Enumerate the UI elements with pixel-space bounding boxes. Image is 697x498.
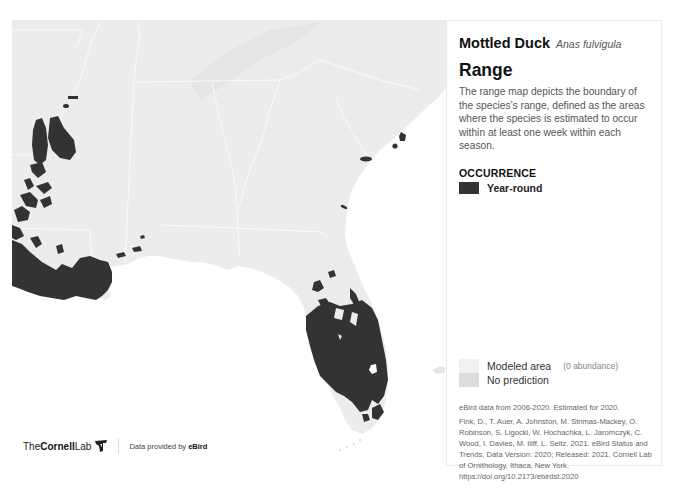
year-round-label: Year-round <box>487 182 542 194</box>
legend-item-no-prediction: No prediction <box>459 373 618 387</box>
legend-item-modeled-area: Modeled area (0 abundance) <box>459 359 618 373</box>
species-common-name: Mottled Duck <box>459 35 550 51</box>
species-title: Mottled Duck Anas fulvigula <box>459 35 649 51</box>
cornell-bird-icon <box>94 439 108 453</box>
year-round-swatch <box>459 182 479 194</box>
modeled-area-swatch <box>459 359 479 373</box>
legend-item-year-round: Year-round <box>459 182 649 194</box>
cornell-logo-the: The <box>23 441 40 452</box>
occurrence-heading: OCCURRENCE <box>459 167 649 179</box>
species-scientific-name: Anas fulvigula <box>556 38 621 50</box>
info-panel: Mottled Duck Anas fulvigula Range The ra… <box>446 20 662 466</box>
cornell-logo-lab: Lab <box>75 441 92 452</box>
range-description: The range map depicts the boundary of th… <box>459 85 649 153</box>
florida-keys <box>339 439 361 451</box>
no-prediction-label: No prediction <box>487 374 549 386</box>
branding-bar: TheCornellLab Data provided by eBird <box>23 438 207 454</box>
provided-prefix: Data provided by <box>129 442 188 451</box>
data-provider-credit: Data provided by eBird <box>129 442 207 451</box>
modeled-area-sublabel: (0 abundance) <box>563 361 618 371</box>
cornell-logo-name[interactable]: Cornell <box>40 441 74 452</box>
branding-separator <box>118 438 119 454</box>
range-heading: Range <box>459 60 649 81</box>
no-prediction-swatch <box>459 373 479 387</box>
data-years: eBird data from 2006-2020. Estimated for… <box>459 402 655 413</box>
island-hint <box>432 366 446 374</box>
citation-text: Fink, D., T. Auer, A. Johnston, M. Strim… <box>459 416 655 482</box>
secondary-legend: Modeled area (0 abundance) No prediction <box>459 359 618 387</box>
ebird-link[interactable]: eBird <box>188 442 207 451</box>
modeled-area-label: Modeled area <box>487 360 551 372</box>
citation-block: eBird data from 2006-2020. Estimated for… <box>459 402 655 485</box>
